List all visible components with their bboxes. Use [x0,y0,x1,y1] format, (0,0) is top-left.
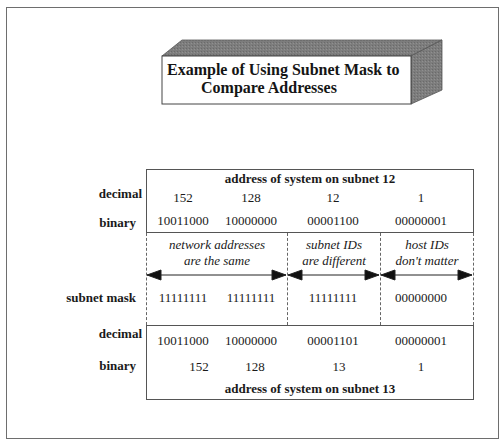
bottom-row2-octet-3: 13 [304,359,374,375]
bottom-row1-octet-1: 10011000 [150,333,216,349]
subnet-mask-label: subnet mask [36,290,136,306]
bottom-row1-octet-4: 00000001 [388,333,454,349]
mask-octet-2: 11111111 [218,290,284,306]
bottom-row2-octet-4: 1 [388,359,454,375]
bottom-row1-octet-3: 00001101 [298,333,368,349]
bottom-row2-octet-2: 128 [222,359,288,375]
bottom-decimal-label: decimal [42,326,142,342]
bottom-binary-label: binary [36,358,136,374]
bottom-row1-octet-2: 10000000 [218,333,284,349]
mask-octet-1: 11111111 [150,290,216,306]
subnet-13-footer: address of system on subnet 13 [146,381,474,397]
mask-octet-4: 00000000 [388,290,454,306]
mask-octet-3: 11111111 [298,290,368,306]
